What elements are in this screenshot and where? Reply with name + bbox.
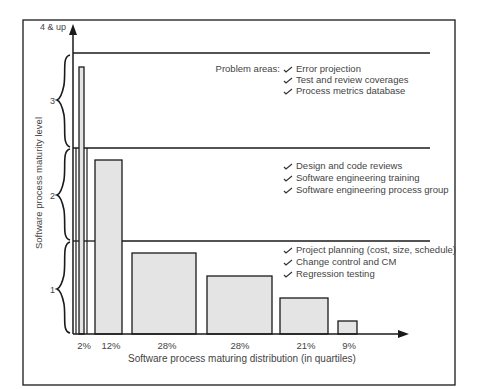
brace-level-1-icon — [57, 242, 70, 333]
bar-28pct-a — [132, 253, 196, 334]
x-tick-21pct: 21% — [296, 340, 316, 351]
bar-2pct — [79, 67, 84, 334]
bars — [79, 67, 357, 334]
x-tick-12pct: 12% — [101, 340, 121, 351]
annotation-item: Software engineering training — [296, 172, 420, 183]
annotation-item: Software engineering process group — [296, 184, 449, 195]
y-axis-arrow-icon — [69, 24, 77, 35]
annotation-item: Error projection — [296, 63, 361, 74]
annotation-item: Process metrics database — [296, 85, 405, 96]
chart-figure: 4 & up 3 2 1 Software process maturity l… — [0, 0, 481, 389]
bar-9pct — [338, 321, 357, 334]
annotation-item: Project planning (cost, size, schedule) — [296, 244, 456, 255]
annotation-item: Change control and CM — [296, 256, 396, 267]
x-tick-9pct: 9% — [342, 340, 356, 351]
x-tick-2pct: 2% — [77, 340, 91, 351]
annotation-level-2: Design and code reviews Software enginee… — [284, 160, 449, 195]
y-level-3: 3 — [50, 96, 55, 106]
y-level-1: 1 — [50, 285, 55, 295]
y-level-2: 2 — [50, 191, 55, 201]
x-axis-arrow-icon — [398, 330, 409, 338]
annotation-level-1: Project planning (cost, size, schedule) … — [284, 244, 456, 279]
y-axis-label: Software process maturity level — [33, 117, 44, 249]
y-level-4up: 4 & up — [40, 22, 66, 32]
brace-level-2-icon — [57, 149, 70, 240]
problem-areas-heading: Problem areas: — [216, 63, 280, 74]
x-tick-28pct-b: 28% — [230, 340, 250, 351]
level-braces — [57, 55, 70, 333]
bar-21pct — [280, 298, 328, 334]
annotation-item: Design and code reviews — [296, 160, 402, 171]
bar-28pct-b — [207, 276, 272, 334]
check-icon — [284, 67, 292, 94]
annotation-item: Test and review coverages — [296, 74, 409, 85]
x-tick-28pct-a: 28% — [157, 340, 177, 351]
check-icon — [284, 164, 292, 193]
bar-12pct — [95, 160, 122, 334]
check-icon — [284, 248, 292, 277]
annotation-item: Regression testing — [296, 268, 375, 279]
annotation-level-3: Problem areas: Error projection Test and… — [216, 63, 409, 96]
x-axis-label: Software process maturing distribution (… — [128, 353, 356, 364]
brace-level-3-icon — [57, 55, 70, 147]
